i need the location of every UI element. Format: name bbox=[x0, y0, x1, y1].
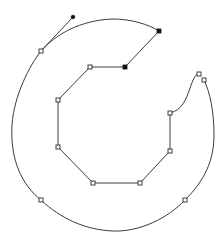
anchor-point[interactable] bbox=[138, 181, 142, 185]
anchor-point[interactable] bbox=[202, 78, 206, 82]
selected-anchor-point[interactable] bbox=[157, 29, 161, 33]
open-anchor-points bbox=[39, 49, 206, 202]
path-diagram bbox=[0, 0, 224, 243]
anchor-point[interactable] bbox=[168, 111, 172, 115]
inner-polyline-path[interactable] bbox=[58, 31, 199, 183]
anchor-point[interactable] bbox=[88, 65, 92, 69]
anchor-point[interactable] bbox=[197, 72, 201, 76]
anchor-point[interactable] bbox=[91, 181, 95, 185]
anchor-point[interactable] bbox=[168, 149, 172, 153]
outer-curve-path[interactable] bbox=[12, 51, 214, 231]
anchor-point[interactable] bbox=[56, 98, 60, 102]
outer-top-curve-path[interactable] bbox=[41, 19, 159, 51]
anchor-point[interactable] bbox=[183, 198, 187, 202]
selected-anchor-point[interactable] bbox=[123, 65, 127, 69]
anchor-point[interactable] bbox=[56, 145, 60, 149]
direction-handle-line[interactable] bbox=[41, 17, 73, 51]
anchor-point[interactable] bbox=[39, 49, 43, 53]
path-diagram-canvas bbox=[0, 0, 224, 243]
anchor-point[interactable] bbox=[39, 198, 43, 202]
direction-handle-point[interactable] bbox=[71, 15, 75, 19]
